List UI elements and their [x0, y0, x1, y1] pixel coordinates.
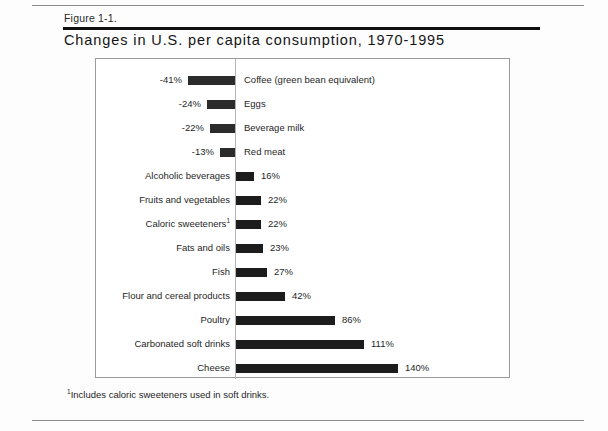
category-label: Red meat	[244, 145, 285, 159]
category-label: Eggs	[244, 97, 266, 111]
value-label: -22%	[182, 121, 204, 135]
bar-row: Flour and cereal products42%	[96, 285, 511, 309]
category-label: Coffee (green bean equivalent)	[244, 73, 375, 87]
bar-eggs	[207, 100, 235, 109]
bar-caloric-sweeteners	[236, 220, 261, 229]
figure-page: Figure 1-1. Changes in U.S. per capita c…	[0, 0, 608, 431]
bar-row: Red meat-13%	[96, 141, 511, 165]
bar-fruits-and-vegetables	[236, 196, 261, 205]
category-label: Fish	[212, 265, 230, 279]
value-label: 27%	[274, 265, 293, 279]
bar-row: Alcoholic beverages16%	[96, 165, 511, 189]
value-label: 140%	[405, 361, 429, 375]
figure-footnote: 1Includes caloric sweeteners used in sof…	[67, 389, 269, 400]
figure-title: Changes in U.S. per capita consumption, …	[64, 32, 445, 48]
bar-row: Coffee (green bean equivalent)-41%	[96, 69, 511, 93]
page-rule-bottom	[32, 420, 584, 421]
bar-row: Eggs-24%	[96, 93, 511, 117]
value-label: -24%	[179, 97, 201, 111]
bar-row: Beverage milk-22%	[96, 117, 511, 141]
category-label: Carbonated soft drinks	[134, 337, 230, 351]
category-footnote-marker: 1	[226, 217, 230, 224]
value-label: -41%	[160, 73, 182, 87]
category-label: Cheese	[197, 361, 230, 375]
title-divider-rule	[63, 27, 540, 30]
figure-number-label: Figure 1-1.	[64, 12, 117, 24]
bar-carbonated-soft-drinks	[236, 340, 364, 349]
bar-row: Caloric sweeteners122%	[96, 213, 511, 237]
value-label: -13%	[192, 145, 214, 159]
value-label: 23%	[270, 241, 289, 255]
category-label: Flour and cereal products	[122, 289, 230, 303]
value-label: 42%	[292, 289, 311, 303]
bar-row: Carbonated soft drinks111%	[96, 333, 511, 357]
category-label: Fruits and vegetables	[139, 193, 230, 207]
value-label: 16%	[261, 169, 280, 183]
bar-coffee-green-bean-equivalent	[188, 76, 235, 85]
value-label: 86%	[342, 313, 361, 327]
bar-flour-and-cereal-products	[236, 292, 285, 301]
chart-plot-area: Coffee (green bean equivalent)-41%Eggs-2…	[95, 58, 510, 378]
value-label: 111%	[371, 337, 394, 351]
footnote-text: Includes caloric sweeteners used in soft…	[71, 389, 270, 400]
bar-fish	[236, 268, 267, 277]
bar-row: Poultry86%	[96, 309, 511, 333]
category-label: Alcoholic beverages	[145, 169, 230, 183]
value-label: 22%	[268, 193, 287, 207]
bar-poultry	[236, 316, 335, 325]
bar-cheese	[236, 364, 398, 373]
category-label: Caloric sweeteners1	[146, 217, 230, 231]
page-rule-top	[32, 5, 584, 6]
bar-row: Cheese140%	[96, 357, 511, 381]
bar-row: Fruits and vegetables22%	[96, 189, 511, 213]
bar-alcoholic-beverages	[236, 172, 254, 181]
bar-red-meat	[220, 148, 235, 157]
category-label: Beverage milk	[244, 121, 304, 135]
bar-row: Fats and oils23%	[96, 237, 511, 261]
bar-row: Fish27%	[96, 261, 511, 285]
bar-beverage-milk	[210, 124, 235, 133]
value-label: 22%	[268, 217, 287, 231]
category-label: Poultry	[200, 313, 230, 327]
category-label: Fats and oils	[176, 241, 230, 255]
bar-fats-and-oils	[236, 244, 263, 253]
